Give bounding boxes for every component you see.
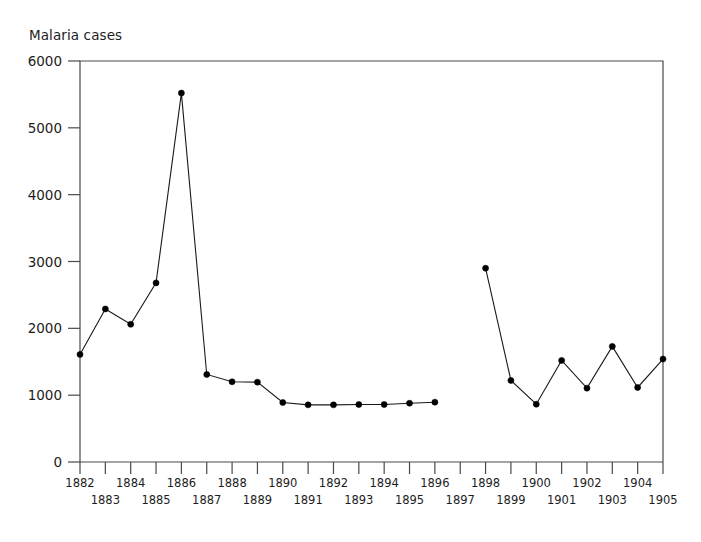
x-tick-label: 1892 xyxy=(319,476,348,490)
x-tick-label: 1896 xyxy=(420,476,449,490)
x-tick-marks xyxy=(80,462,663,474)
x-tick-label: 1890 xyxy=(268,476,297,490)
x-tick-label: 1882 xyxy=(65,476,94,490)
y-tick-label: 6000 xyxy=(28,53,62,69)
plot-area xyxy=(0,0,701,542)
x-tick-label: 1898 xyxy=(471,476,500,490)
y-tick-label: 1000 xyxy=(28,387,62,403)
x-tick-label: 1889 xyxy=(243,493,272,507)
x-tick-label: 1895 xyxy=(395,493,424,507)
data-line xyxy=(80,93,663,405)
x-tick-label: 1893 xyxy=(344,493,373,507)
x-tick-label: 1883 xyxy=(91,493,120,507)
y-tick-label: 4000 xyxy=(28,187,62,203)
y-tick-label: 3000 xyxy=(28,254,62,270)
x-tick-label: 1902 xyxy=(572,476,601,490)
x-tick-label: 1900 xyxy=(522,476,551,490)
data-markers xyxy=(77,90,666,408)
y-tick-marks xyxy=(68,61,80,462)
x-tick-label: 1903 xyxy=(598,493,627,507)
x-tick-label: 1899 xyxy=(496,493,525,507)
x-tick-label: 1894 xyxy=(370,476,399,490)
x-tick-label: 1904 xyxy=(623,476,652,490)
y-tick-label: 2000 xyxy=(28,320,62,336)
x-tick-label: 1884 xyxy=(116,476,145,490)
y-tick-label: 0 xyxy=(53,454,62,470)
x-tick-label: 1887 xyxy=(192,493,221,507)
y-tick-label: 5000 xyxy=(28,120,62,136)
x-tick-label: 1897 xyxy=(446,493,475,507)
plot-frame xyxy=(80,61,663,462)
x-tick-label: 1886 xyxy=(167,476,196,490)
x-tick-label: 1885 xyxy=(141,493,170,507)
chart-figure: Malaria cases 0100020003000400050006000 … xyxy=(0,0,701,542)
x-tick-label: 1901 xyxy=(547,493,576,507)
x-tick-label: 1905 xyxy=(648,493,677,507)
x-tick-label: 1891 xyxy=(293,493,322,507)
x-tick-label: 1888 xyxy=(217,476,246,490)
